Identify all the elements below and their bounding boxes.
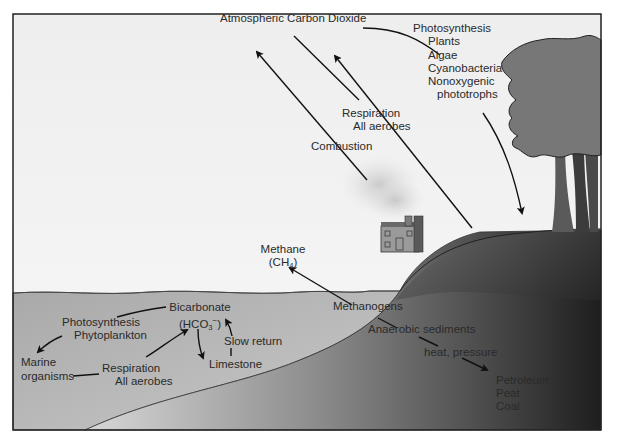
fuel-peat: Peat <box>496 387 520 400</box>
anaerobic-sediments-label: Anaerobic sediments <box>368 323 475 336</box>
bicarbonate-label: Bicarbonate <box>164 301 236 314</box>
ocean-respiration-subtitle: All aerobes <box>115 375 173 388</box>
organism-nonoxygenic: Nonoxygenic <box>428 75 494 88</box>
methane-formula: (CH4) <box>255 256 311 272</box>
fuel-coal: Coal <box>496 400 520 413</box>
marine-organisms-line2: organisms <box>21 370 74 383</box>
fuel-petroleum: Petroleum <box>496 374 548 387</box>
methane-label: Methane <box>255 243 311 256</box>
bicarbonate-formula: (HCO3−) <box>164 314 236 334</box>
combustion-label: Combustion <box>311 140 372 153</box>
limestone-label: Limestone <box>209 358 262 371</box>
ocean-respiration-title: Respiration <box>102 362 160 375</box>
methanogens-label: Methanogens <box>333 300 403 313</box>
heat-pressure-label: heat, pressure <box>424 346 498 359</box>
carbon-cycle-diagram: Atmospheric Carbon Dioxide Photosynthesi… <box>0 0 618 444</box>
organism-algae: Algae <box>428 49 457 62</box>
land-respiration-title: Respiration <box>342 107 400 120</box>
land-respiration-subtitle: All aerobes <box>353 120 411 133</box>
organism-cyanobacteria: Cyanobacteria <box>428 62 502 75</box>
land-photosynthesis-title: Photosynthesis <box>413 22 491 35</box>
ocean-photosynthesis-title: Photosynthesis <box>62 316 140 329</box>
slow-return-label: Slow return <box>224 335 282 348</box>
atmospheric-co2-label: Atmospheric Carbon Dioxide <box>220 12 366 25</box>
organism-phototrophs: phototrophs <box>437 88 498 101</box>
organism-plants: Plants <box>428 35 460 48</box>
ocean-photosynthesis-subtitle: Phytoplankton <box>74 329 147 342</box>
marine-organisms-line1: Marine <box>21 356 56 369</box>
